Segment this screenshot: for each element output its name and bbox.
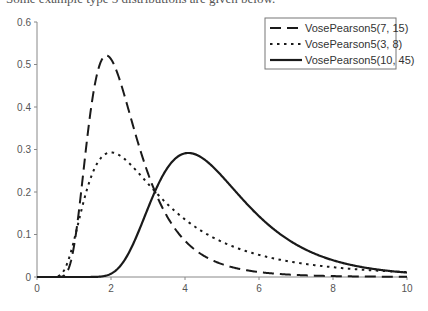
x-tick-label: 0 — [34, 283, 40, 294]
x-tick-label: 8 — [330, 283, 336, 294]
pearson5-chart: 00.10.20.30.40.50.6 0246810 VosePearson5… — [0, 0, 428, 311]
x-axis: 0246810 — [34, 277, 413, 294]
y-tick-label: 0.5 — [17, 59, 31, 70]
y-tick-label: 0 — [25, 272, 31, 283]
x-tick-label: 4 — [182, 283, 188, 294]
series-line-3 — [37, 153, 407, 277]
x-tick-label: 10 — [401, 283, 413, 294]
legend: VosePearson5(7, 15)VosePearson5(3, 8)Vos… — [265, 18, 414, 69]
series-line-2 — [37, 152, 407, 277]
y-tick-label: 0.6 — [17, 17, 31, 28]
y-tick-label: 0.2 — [17, 187, 31, 198]
legend-label-2: VosePearson5(3, 8) — [305, 38, 402, 50]
legend-label-3: VosePearson5(10, 45) — [305, 54, 414, 66]
x-tick-label: 2 — [108, 283, 114, 294]
y-tick-label: 0.3 — [17, 144, 31, 155]
x-tick-label: 6 — [256, 283, 262, 294]
series-layer — [37, 56, 407, 277]
series-line-1 — [37, 56, 407, 277]
y-axis: 00.10.20.30.40.50.6 — [17, 17, 37, 283]
y-tick-label: 0.1 — [17, 229, 31, 240]
legend-label-1: VosePearson5(7, 15) — [305, 22, 408, 34]
y-tick-label: 0.4 — [17, 102, 31, 113]
